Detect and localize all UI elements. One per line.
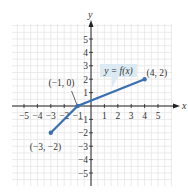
callout-label: y = f(x) (103, 66, 133, 77)
y-tick-label: 2 (83, 75, 88, 85)
x-tick-label: −5 (19, 111, 29, 121)
data-point (49, 131, 53, 135)
x-axis-arrow-icon (173, 104, 180, 109)
grid (12, 24, 172, 186)
y-tick-label: 5 (83, 35, 88, 45)
x-tick-label: 2 (115, 111, 120, 121)
y-tick-label: 4 (83, 48, 88, 58)
y-tick-label: −3 (78, 142, 88, 152)
function-graph: xy −5−4−3−2−11234554321−1−2−3−4−5 y = f(… (0, 0, 188, 194)
x-tick-label: 1 (102, 111, 107, 121)
y-tick-label: 3 (83, 61, 88, 71)
x-tick-label: 5 (156, 111, 161, 121)
x-tick-label: 4 (142, 111, 147, 121)
y-axis-label: y (87, 9, 93, 20)
y-tick-label: −2 (78, 128, 88, 138)
point-label: (−3, −2) (30, 142, 61, 153)
point-label: (4, 2) (147, 68, 168, 79)
y-tick-label: −5 (78, 169, 88, 179)
y-tick-label: −1 (78, 115, 88, 125)
x-tick-label: −3 (46, 111, 56, 121)
x-tick-label: −4 (32, 111, 42, 121)
point-label: (−1, 0) (49, 78, 75, 89)
x-axis-label: x (181, 100, 187, 111)
y-tick-label: 1 (83, 88, 88, 98)
data-point (75, 104, 79, 108)
x-tick-label: 3 (129, 111, 134, 121)
y-tick-label: −4 (78, 155, 88, 165)
y-axis-arrow-icon (89, 20, 94, 27)
